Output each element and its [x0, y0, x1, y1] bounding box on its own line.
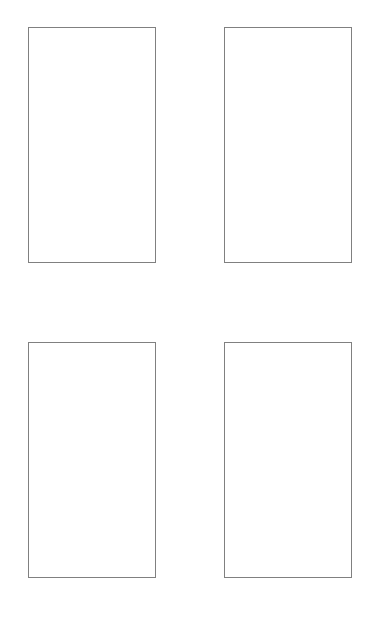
panel-histogram-of-residuals — [196, 0, 391, 315]
residual-plots-figure — [0, 0, 391, 630]
plot-canvas-normal-probability-plot — [225, 343, 351, 577]
plot-canvas-histogram-of-residuals — [225, 28, 351, 262]
panel-residuals-versus-fitted-values — [0, 315, 195, 630]
figure-rotator — [0, 0, 391, 630]
plot-area-normal-probability-plot — [224, 342, 352, 578]
plot-canvas-residuals-versus-order — [29, 28, 155, 262]
panel-normal-probability-plot — [196, 315, 391, 630]
panel-residuals-versus-order — [0, 0, 195, 315]
plot-area-residuals-versus-fitted-values — [28, 342, 156, 578]
plot-canvas-residuals-versus-fitted-values — [29, 343, 155, 577]
plot-area-residuals-versus-order — [28, 27, 156, 263]
plot-area-histogram-of-residuals — [224, 27, 352, 263]
